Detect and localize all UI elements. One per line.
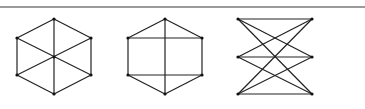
graph-node [126, 36, 129, 39]
graph-edge [17, 19, 54, 38]
graph-k33-bipartite [236, 17, 313, 95]
graph-node [89, 73, 92, 76]
graph-node [126, 73, 129, 76]
graph-node [236, 92, 239, 95]
graph-node [310, 17, 313, 20]
graph-node [52, 17, 55, 20]
graph-node [163, 17, 166, 20]
graph-node [236, 55, 239, 58]
graph-node [236, 17, 239, 20]
graph-node [15, 73, 18, 76]
graph-hexagon-with-cross [126, 17, 203, 95]
graph-node [15, 36, 18, 39]
graph-edge [128, 75, 165, 94]
graph-node [52, 92, 55, 95]
graph-edge [17, 75, 54, 94]
graph-edge [165, 75, 202, 94]
graph-node [310, 92, 313, 95]
graph-node [200, 36, 203, 39]
graph-node [200, 73, 203, 76]
graph-node [310, 55, 313, 58]
graph-edge [54, 19, 91, 38]
graph-node [163, 92, 166, 95]
graphs-canvas [0, 0, 365, 109]
graph-node [52, 55, 55, 58]
graph-node [89, 36, 92, 39]
graph-edge [128, 19, 165, 38]
graph-edge [165, 19, 202, 38]
graph-wheel-hexagon [15, 17, 92, 95]
graph-edge [54, 75, 91, 94]
